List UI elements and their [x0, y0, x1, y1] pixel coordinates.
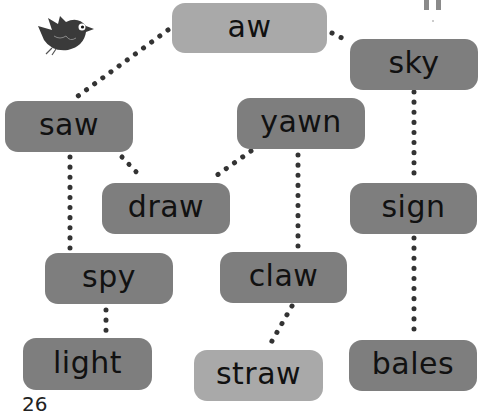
edge-yawn-draw	[213, 151, 251, 178]
bird-icon	[30, 10, 96, 56]
word-box-light: light	[23, 338, 152, 390]
word-box-aw: aw	[172, 3, 327, 53]
word-label: sky	[388, 45, 439, 80]
edge-saw-draw	[122, 157, 142, 178]
word-box-straw: straw	[194, 350, 323, 401]
word-box-draw: draw	[102, 183, 230, 234]
word-label: straw	[216, 356, 301, 391]
word-box-sign: sign	[350, 183, 477, 234]
word-label: spy	[82, 259, 136, 294]
word-label: aw	[228, 9, 272, 44]
word-box-bales: bales	[349, 340, 477, 391]
word-label: bales	[372, 346, 454, 381]
edge-claw-straw	[268, 306, 292, 348]
edge-aw-sky	[332, 33, 350, 42]
word-label: saw	[39, 107, 99, 142]
word-box-spy: spy	[45, 253, 173, 304]
word-label: sign	[381, 189, 445, 224]
word-label: yawn	[260, 104, 342, 139]
word-box-claw: claw	[220, 252, 347, 303]
word-label: light	[53, 345, 122, 380]
word-label: claw	[249, 258, 319, 293]
word-box-yawn: yawn	[237, 98, 365, 149]
word-box-saw: saw	[5, 101, 133, 152]
legs-icon	[420, 0, 450, 25]
page-number: 26	[22, 392, 47, 415]
word-box-sky: sky	[350, 39, 478, 90]
word-label: draw	[128, 189, 204, 224]
word-tree-diagram: aw sky saw yawn draw sign spy claw light…	[0, 0, 483, 415]
